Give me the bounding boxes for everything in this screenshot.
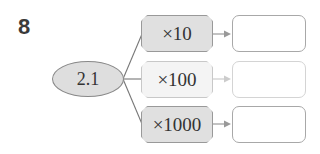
- answer-box-times-100[interactable]: [232, 61, 306, 98]
- start-value-oval: 2.1: [52, 61, 124, 97]
- answer-box-times-1000[interactable]: [232, 106, 306, 143]
- operation-times-1000: ×1000: [141, 106, 213, 143]
- answer-box-times-10[interactable]: [232, 15, 306, 52]
- operation-times-10: ×10: [141, 15, 213, 52]
- arrow-icon: [213, 76, 231, 83]
- arrow-icon: [213, 121, 231, 128]
- arrow-icon: [213, 31, 231, 38]
- operation-times-100: ×100: [141, 61, 213, 98]
